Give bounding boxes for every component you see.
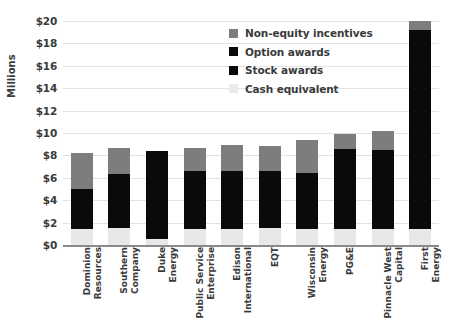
y-tick-label: $20: [0, 15, 57, 27]
bar-segment[interactable]: [259, 228, 281, 245]
bar-segment[interactable]: [184, 148, 206, 172]
bar-segment[interactable]: [334, 134, 356, 149]
y-tick-label: $6: [0, 172, 57, 184]
bar-column[interactable]: [372, 21, 394, 245]
bar-segment[interactable]: [296, 173, 318, 229]
bar-segment[interactable]: [409, 229, 431, 245]
legend-item[interactable]: Stock awards: [229, 64, 373, 76]
x-axis-tick-labels: DominionResourcesSouthernCompanyDukeEner…: [63, 249, 439, 331]
x-label-cell: FirstEnergy: [409, 249, 431, 331]
bar-column[interactable]: [146, 21, 168, 245]
legend-item[interactable]: Cash equivalent: [229, 83, 373, 95]
x-label-cell: EdisonInternational: [221, 249, 243, 331]
x-tick-label-line: Energy: [318, 247, 329, 327]
bar-column[interactable]: [184, 21, 206, 245]
x-tick-label: SouthernCompany: [119, 247, 140, 327]
x-tick-label-line: Resources: [92, 247, 103, 327]
bar-segment[interactable]: [71, 153, 93, 189]
y-tick-label: $0: [0, 239, 57, 251]
stacked-bar-chart: Millions $0$2$4$6$8$10$12$14$16$18$20 Do…: [0, 0, 449, 332]
y-tick-label: $2: [0, 217, 57, 229]
y-tick-label: $12: [0, 105, 57, 117]
legend-item[interactable]: Non-equity incentives: [229, 27, 373, 39]
x-tick-label-line: Southern: [119, 247, 130, 327]
x-tick-label-line: EQT: [270, 247, 281, 327]
bar-segment[interactable]: [409, 30, 431, 229]
bar-segment[interactable]: [334, 149, 356, 230]
bar-segment[interactable]: [146, 151, 168, 239]
legend-swatch-icon: [229, 66, 238, 75]
x-tick-label: DominionResources: [82, 247, 103, 327]
bar-segment[interactable]: [372, 131, 394, 150]
x-tick-label-line: Duke: [157, 247, 168, 327]
bar-segment[interactable]: [296, 229, 318, 245]
y-tick-label: $10: [0, 127, 57, 139]
x-tick-label-line: Pinnacle West: [383, 247, 394, 327]
bar-segment[interactable]: [71, 229, 93, 245]
bar-segment[interactable]: [259, 171, 281, 228]
bar-segment[interactable]: [146, 239, 168, 245]
bar-column[interactable]: [409, 21, 431, 245]
bar-segment[interactable]: [184, 171, 206, 229]
x-tick-label-line: Wisconsin: [307, 247, 318, 327]
x-tick-label-line: First: [420, 247, 431, 327]
y-tick-label: $8: [0, 149, 57, 161]
x-label-cell: WisconsinEnergy: [296, 249, 318, 331]
x-label-cell: PG&E: [334, 249, 356, 331]
x-tick-label: PG&E: [345, 247, 356, 327]
x-label-cell: Pinnacle WestCapital: [372, 249, 394, 331]
x-tick-label: Public ServiceEnterprise: [195, 247, 216, 327]
legend-label: Option awards: [245, 46, 330, 58]
bar-segment[interactable]: [108, 148, 130, 175]
x-tick-label-line: International: [243, 247, 254, 327]
bar-segment[interactable]: [372, 229, 394, 245]
bar-segment[interactable]: [71, 189, 93, 229]
x-tick-label-line: Capital: [393, 247, 404, 327]
bar-segment[interactable]: [184, 229, 206, 245]
x-tick-label: DukeEnergy: [157, 247, 178, 327]
legend-swatch-icon: [229, 84, 238, 93]
legend-label: Cash equivalent: [245, 83, 339, 95]
bar-column[interactable]: [71, 21, 93, 245]
x-tick-label-line: Edison: [232, 247, 243, 327]
bar-segment[interactable]: [409, 21, 431, 30]
y-tick-label: $14: [0, 82, 57, 94]
y-tick-label: $16: [0, 60, 57, 72]
bar-segment[interactable]: [296, 140, 318, 174]
y-tick-label: $18: [0, 37, 57, 49]
bar-segment[interactable]: [221, 229, 243, 245]
bar-segment[interactable]: [372, 150, 394, 230]
x-label-cell: DukeEnergy: [146, 249, 168, 331]
x-tick-label-line: Dominion: [82, 247, 93, 327]
x-tick-label-line: Energy: [167, 247, 178, 327]
legend-item[interactable]: Option awards: [229, 46, 373, 58]
bar-segment[interactable]: [334, 229, 356, 245]
x-tick-label: EQT: [270, 247, 281, 327]
chart-legend: Non-equity incentivesOption awardsStock …: [229, 27, 373, 101]
y-tick-label: $4: [0, 194, 57, 206]
x-label-cell: Public ServiceEnterprise: [184, 249, 206, 331]
x-tick-label: WisconsinEnergy: [307, 247, 328, 327]
x-tick-label: Pinnacle WestCapital: [383, 247, 404, 327]
bar-segment[interactable]: [108, 228, 130, 245]
bar-column[interactable]: [108, 21, 130, 245]
x-tick-label-line: Enterprise: [205, 247, 216, 327]
x-tick-label-line: Public Service: [195, 247, 206, 327]
bar-segment[interactable]: [221, 145, 243, 171]
legend-label: Non-equity incentives: [245, 27, 373, 39]
legend-swatch-icon: [229, 29, 238, 38]
x-tick-label: EdisonInternational: [232, 247, 253, 327]
x-label-cell: DominionResources: [71, 249, 93, 331]
x-tick-label: FirstEnergy: [420, 247, 441, 327]
x-label-cell: EQT: [259, 249, 281, 331]
bar-segment[interactable]: [221, 171, 243, 229]
x-tick-label-line: Company: [130, 247, 141, 327]
legend-swatch-icon: [229, 47, 238, 56]
bar-segment[interactable]: [259, 146, 281, 171]
x-tick-label-line: Energy: [431, 247, 442, 327]
x-tick-label-line: PG&E: [345, 247, 356, 327]
legend-label: Stock awards: [245, 64, 323, 76]
x-label-cell: SouthernCompany: [108, 249, 130, 331]
bar-segment[interactable]: [108, 174, 130, 228]
